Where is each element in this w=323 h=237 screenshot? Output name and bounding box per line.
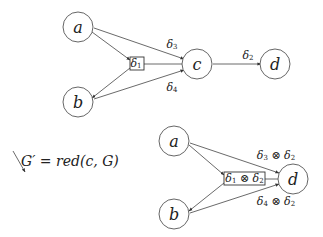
node-b-label: b <box>73 93 83 112</box>
node-d-label: d <box>270 55 280 74</box>
edge-label-delta3-otimes-delta2: δ3 ⊗ δ2 <box>257 149 295 163</box>
node-b2-label: b <box>169 205 179 224</box>
edge-a-box2 <box>189 145 224 175</box>
edge-label-delta3: δ3 <box>166 38 177 52</box>
transform-formula: G′ = red(c, G) <box>21 153 119 169</box>
node-a-label: a <box>73 18 83 37</box>
bottom-graph: a b d δ1 ⊗ δ2 δ3 ⊗ δ2 δ4 ⊗ δ2 <box>159 126 308 229</box>
edge-label-delta4: δ4 <box>166 81 178 95</box>
node-a2-label: a <box>169 132 179 151</box>
top-graph: a b c d δ1 δ3 δ4 δ2 <box>63 12 290 117</box>
reduction-diagram: a b c d δ1 δ3 δ4 δ2 G′ = red(c, G) a b d… <box>0 0 323 237</box>
node-d2-label: d <box>288 170 298 189</box>
edge-a-box <box>92 32 130 60</box>
box-delta1-otimes-delta2-label: δ1 ⊗ δ2 <box>225 172 263 186</box>
node-c-label: c <box>193 55 202 74</box>
transformation: G′ = red(c, G) <box>13 151 119 172</box>
edge-label-delta2: δ2 <box>242 49 253 63</box>
edge-b-d <box>190 184 279 213</box>
edge-b-box2 <box>189 183 224 211</box>
edge-label-delta4-otimes-delta2: δ4 ⊗ δ2 <box>257 195 295 209</box>
